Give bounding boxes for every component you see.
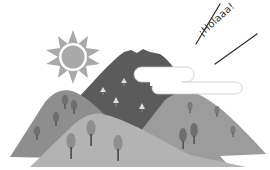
sun-icon [46,30,100,84]
illustration: ¡Holaaa! [0,0,270,170]
